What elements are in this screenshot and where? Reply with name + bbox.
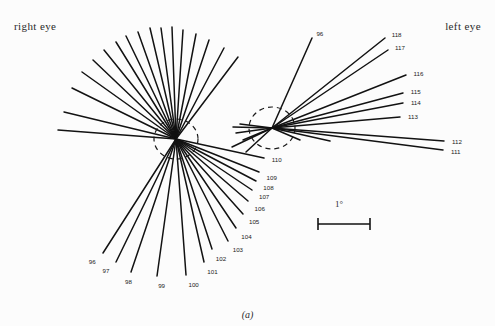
unit-label: 118: [392, 31, 402, 38]
figure-panel: right eye left eye 969798991001011021031…: [0, 0, 495, 326]
figure-caption: (a): [0, 309, 495, 320]
orientation-line: [272, 38, 385, 128]
orientation-line: [233, 127, 272, 128]
unit-label: 108: [263, 184, 274, 191]
unit-label: 109: [267, 174, 278, 181]
scale-bar-label: 1°: [335, 199, 343, 209]
orientation-line: [131, 139, 176, 272]
unit-label: 113: [408, 113, 418, 120]
unit-label: 110: [272, 156, 282, 163]
right-eye-label: right eye: [14, 20, 56, 32]
unit-label: 102: [216, 255, 227, 262]
unit-label: 105: [249, 218, 260, 225]
orientation-line: [176, 48, 224, 139]
unit-label: 112: [452, 138, 462, 145]
unit-label: 96: [316, 30, 323, 37]
orientation-line: [103, 139, 176, 253]
orientation-fan-plot: 9697989910010110210310410510610710810911…: [0, 0, 495, 326]
orientation-line: [176, 139, 228, 241]
unit-label: 96: [89, 258, 96, 265]
unit-label: 106: [255, 205, 266, 212]
left-eye-label: left eye: [445, 20, 481, 32]
unit-label: 101: [207, 268, 218, 275]
orientation-line: [176, 57, 238, 139]
unit-label: 116: [414, 70, 424, 77]
unit-label: 104: [241, 233, 252, 240]
unit-label: 97: [102, 267, 109, 274]
unit-label: 98: [125, 278, 132, 285]
unit-label: 117: [395, 44, 405, 51]
unit-label: 107: [259, 193, 270, 200]
unit-number-labels: 9697989910010110210310410510610710810911…: [89, 30, 463, 289]
unit-label: 114: [411, 99, 421, 106]
unit-label: 99: [158, 282, 165, 289]
unit-label: 111: [451, 148, 461, 155]
scale-bar: [318, 218, 370, 230]
unit-label: 103: [233, 246, 244, 253]
unit-label: 100: [188, 281, 199, 288]
unit-label: 115: [411, 88, 421, 95]
